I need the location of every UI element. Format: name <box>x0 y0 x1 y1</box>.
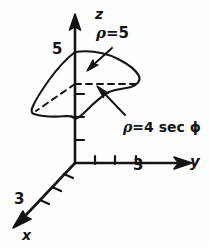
sphere-rho-symbol: ρ <box>96 24 106 42</box>
figure-canvas: z y x 5 3 3 ρ=5 ρ=4 sec ϕ <box>0 0 209 247</box>
y-axis-tick-label: 3 <box>133 158 143 173</box>
x-axis-ticks <box>40 174 73 204</box>
y-axis-label: y <box>190 155 200 170</box>
z-axis-label: z <box>95 7 103 21</box>
x-axis <box>26 163 75 215</box>
sphere-leader-line <box>92 48 112 66</box>
x-axis-tick-label: 3 <box>14 192 24 207</box>
sphere-equation-rhs: =5 <box>106 24 129 42</box>
x-axis-label: x <box>22 228 31 242</box>
sphere-cap-outline <box>75 51 140 119</box>
cone-equation-label: ρ=4 sec ϕ <box>123 120 201 134</box>
cone-rho-symbol: ρ <box>123 119 132 135</box>
cone-leader-line <box>103 92 125 115</box>
z-intercept-label: 5 <box>52 42 62 57</box>
cone-equation-rhs: =4 sec ϕ <box>132 119 201 135</box>
sphere-equation-label: ρ=5 <box>96 26 129 41</box>
